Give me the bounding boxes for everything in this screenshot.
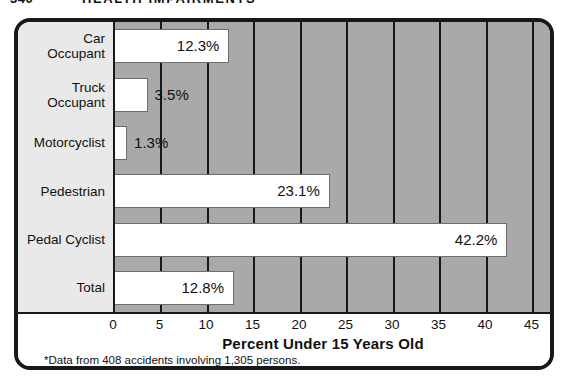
bar-value-label: 1.3% xyxy=(127,126,168,160)
category-label-5: Pedal Cyclist xyxy=(27,232,105,247)
category-label-line: Total xyxy=(76,280,105,295)
category-label-line: Pedal Cyclist xyxy=(27,232,105,247)
category-label-4: Pedestrian xyxy=(40,184,105,199)
category-label-line: Occupant xyxy=(47,95,105,110)
category-label-line: Motorcyclist xyxy=(34,135,105,150)
category-label-6: Total xyxy=(76,280,105,295)
bar-value-label: 12.3% xyxy=(115,29,229,63)
bar-row: 12.8% xyxy=(115,271,552,305)
category-label-line: Pedestrian xyxy=(40,184,105,199)
running-header: 340 HEALTH IMPAIRMENTS xyxy=(0,0,568,9)
bar-value-label: 23.1% xyxy=(115,174,330,208)
figure-footnote: *Data from 408 accidents involving 1,305… xyxy=(44,354,300,366)
x-axis-strip: Percent Under 15 Years Old *Data from 40… xyxy=(18,312,550,370)
gridline-45 xyxy=(532,22,534,312)
bar-row: 3.5% xyxy=(115,78,552,112)
chart-figure: CarOccupantTruckOccupantMotorcyclistPede… xyxy=(14,18,554,370)
bar-value-label: 42.2% xyxy=(115,223,507,257)
x-tick-label-20: 20 xyxy=(284,317,314,332)
bar-2[interactable] xyxy=(115,78,148,112)
x-tick-label-40: 40 xyxy=(470,317,500,332)
x-tick-label-10: 10 xyxy=(191,317,221,332)
x-tick-label-35: 35 xyxy=(423,317,453,332)
category-label-line: Truck xyxy=(47,80,105,95)
bar-value-label: 12.8% xyxy=(115,271,234,305)
gridline-40 xyxy=(486,22,488,312)
gridline-35 xyxy=(439,22,441,312)
bar-row: 23.1% xyxy=(115,174,552,208)
gridline-5 xyxy=(160,22,162,312)
x-tick-label-0: 0 xyxy=(98,317,128,332)
page-folio: 340 xyxy=(10,0,33,6)
gridline-20 xyxy=(300,22,302,312)
x-tick-label-30: 30 xyxy=(377,317,407,332)
gridline-10 xyxy=(207,22,209,312)
gridline-25 xyxy=(346,22,348,312)
x-tick-label-15: 15 xyxy=(237,317,267,332)
category-label-1: CarOccupant xyxy=(47,31,105,61)
x-axis-title: Percent Under 15 Years Old xyxy=(113,335,533,352)
running-title: HEALTH IMPAIRMENTS xyxy=(82,0,256,6)
bar-row: 1.3% xyxy=(115,126,552,160)
category-label-line: Occupant xyxy=(47,46,105,61)
gridline-15 xyxy=(253,22,255,312)
x-tick-label-25: 25 xyxy=(330,317,360,332)
category-label-line: Car xyxy=(47,31,105,46)
category-label-3: Motorcyclist xyxy=(34,135,105,150)
bar-value-label: 3.5% xyxy=(148,78,189,112)
bar-row: 42.2% xyxy=(115,223,552,257)
category-label-2: TruckOccupant xyxy=(47,80,105,110)
category-label-column: CarOccupantTruckOccupantMotorcyclistPede… xyxy=(18,22,113,312)
gridline-30 xyxy=(393,22,395,312)
x-tick-label-45: 45 xyxy=(516,317,546,332)
bar-3[interactable] xyxy=(115,126,127,160)
x-tick-label-5: 5 xyxy=(144,317,174,332)
bar-row: 12.3% xyxy=(115,29,552,63)
plot-area: 12.3%3.5%1.3%23.1%42.2%12.8% xyxy=(113,22,550,312)
